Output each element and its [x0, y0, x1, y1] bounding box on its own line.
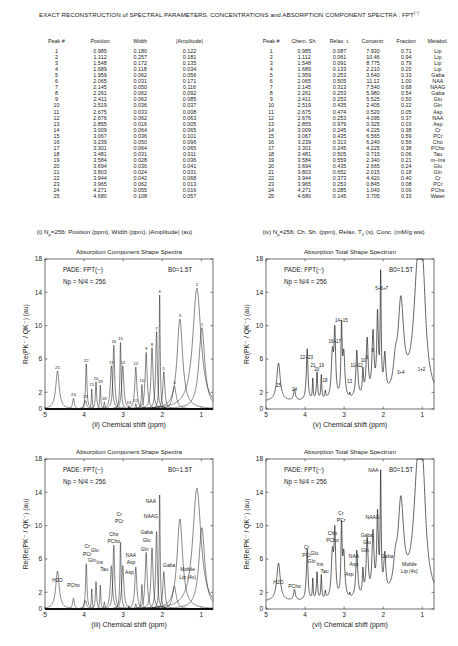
table-cell: 3.705	[355, 193, 391, 199]
metabolite-label: Ins	[317, 561, 324, 567]
field-strength-annotation: B0=1.5T	[389, 266, 413, 273]
metabolite-label: PCho	[108, 538, 121, 544]
metabolite-label: Lip (4x)	[401, 568, 418, 574]
metabolite-label: PCr	[115, 518, 124, 524]
metabolite-label: Asp	[127, 559, 136, 565]
peak-number-label: 10	[140, 378, 145, 383]
peak-number-label: 9	[145, 346, 148, 351]
column-header: Metabol.	[422, 38, 454, 48]
x-tick-label: 5	[43, 611, 47, 618]
peak-group-label: 13	[347, 379, 353, 384]
x-tick-label: 1	[199, 411, 203, 418]
peak-group-label: 3+4	[397, 370, 405, 375]
metabolite-label: NAA	[146, 498, 157, 504]
figure-title: EXACT RECONSTRUCTION of SPECTRAL PARAMET…	[0, 10, 458, 18]
peak-group-label: 14+15	[335, 318, 348, 323]
np-annotation: Np = N/4 = 256	[63, 478, 106, 486]
table-row: 254.6800.1453.7050.33Water	[258, 193, 454, 199]
field-strength-annotation: B0=1.5T	[389, 466, 413, 473]
field-strength-annotation: B0=1.5T	[168, 466, 192, 473]
x-tick-label: 2	[381, 411, 385, 418]
chart-title: Absorption Component Shape Spectra	[76, 448, 183, 455]
peak-number-label: 1	[201, 322, 204, 327]
component-curve	[45, 332, 213, 409]
metabolite-label: H2O	[273, 579, 283, 585]
peak-group-label: 22+23	[300, 355, 313, 360]
y-tick-label: 18	[35, 455, 43, 462]
y-tick-label: 0	[38, 405, 42, 412]
x-axis-label: (iii) Chemical shift (ppm)	[91, 621, 166, 629]
y-tick-label: 6	[38, 555, 42, 562]
table-cell: 4.680	[284, 193, 324, 199]
table-cell: 25	[258, 193, 284, 199]
metabolite-label: Cr	[85, 543, 91, 549]
table-row: 254.6800.1080.057	[36, 193, 222, 199]
y-tick-label: 0	[259, 605, 263, 612]
table-cell: 0.33	[391, 193, 421, 199]
peak-number-label: 16	[111, 339, 116, 344]
metabolite-label: PCho	[326, 537, 339, 543]
x-tick-label: 3	[121, 411, 125, 418]
x-tick-label: 2	[381, 611, 385, 618]
peak-number-label: 24	[71, 392, 76, 397]
peak-group-label: 24	[292, 387, 298, 392]
y-tick-label: 6	[259, 355, 263, 362]
chart-title: Absorption Component Shape Spectra	[76, 248, 183, 255]
metabolite-label: Glu	[143, 537, 151, 543]
x-axis-label: (v) Chemical shift (ppm)	[313, 421, 387, 429]
column-header: Fraction	[391, 38, 421, 48]
y-tick-label: 6	[38, 355, 42, 362]
method-annotation: PADE: FPT(−)	[63, 466, 103, 474]
component-curve	[45, 386, 213, 409]
caption-table-iv: (iv) Np=256: Ch. Sh. (ppm), Relax. T2 (s…	[229, 228, 458, 237]
metabolite-label: H2O	[52, 577, 62, 583]
x-tick-label: 5	[264, 611, 268, 618]
metabolite-label: Gln	[361, 547, 369, 553]
metabolite-label: Mobile	[402, 561, 417, 567]
chart-title: Absorption Total Shape Spectrum	[304, 248, 396, 255]
metabolite-label: Mobile	[180, 566, 195, 572]
metabolite-label: Tau	[100, 566, 108, 572]
x-tick-label: 3	[342, 611, 346, 618]
y-tick-label: 14	[256, 289, 264, 296]
x-tick-label: 3	[121, 611, 125, 618]
y-tick-label: 10	[35, 522, 43, 529]
metabolite-label: Asp	[125, 569, 134, 575]
metabolite-label: NAA	[349, 553, 360, 559]
metabolite-label: Cr	[304, 544, 310, 550]
y-tick-label: 18	[256, 455, 264, 462]
y-axis-label: Re(PK⁻ / QK⁻) (au)	[243, 304, 251, 364]
peak-number-label: 13	[126, 400, 131, 405]
table-cell: 0.145	[324, 193, 355, 199]
component-curve	[45, 488, 213, 609]
y-tick-label: 10	[35, 322, 43, 329]
peak-group-label: 16+17	[328, 339, 341, 344]
chart-component-spectra-ii: Absorption Component Shape Spectra543210…	[0, 245, 229, 425]
caption-table-i: (i) Np=256: Position (ppm), Width (ppm),…	[0, 228, 229, 237]
np-annotation: Np = N/4 = 256	[284, 278, 327, 286]
y-tick-label: 2	[259, 389, 263, 396]
x-tick-label: 4	[82, 611, 86, 618]
metabolite-label: Gln	[141, 546, 149, 552]
peak-group-label: 25	[276, 383, 282, 388]
x-tick-label: 2	[160, 411, 164, 418]
peak-number-label: 20	[94, 376, 99, 381]
peak-number-label: 17	[109, 360, 114, 365]
metabolite-label: Lip (4x)	[179, 574, 196, 580]
y-axis-label: Re(Re(PK⁻ / QK⁻) (au)	[22, 499, 30, 570]
y-tick-label: 14	[35, 489, 43, 496]
y-tick-label: 18	[35, 255, 43, 262]
x-tick-label: 4	[303, 411, 307, 418]
chart-total-spectrum-vi: Absorption Total Shape Spectrum543210261…	[229, 445, 458, 646]
table-cell: 4.680	[77, 193, 124, 199]
table-cell: 25	[36, 193, 77, 199]
column-header: Width	[123, 38, 156, 48]
metabolite-label: Ins	[96, 559, 103, 565]
peak-number-label: 5	[163, 366, 166, 371]
column-header: Position	[77, 38, 124, 48]
metabolite-label: Gln	[308, 558, 316, 564]
metabolite-label: Gaba	[381, 553, 393, 559]
y-tick-label: 6	[259, 555, 263, 562]
metabolite-label: Gaba	[163, 562, 175, 568]
x-tick-label: 5	[264, 411, 268, 418]
